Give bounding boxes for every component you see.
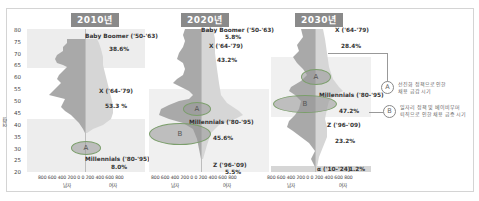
ytick-65: 65 (7, 62, 21, 68)
year-badge-2030: 2030년 (295, 13, 343, 27)
pct-baby-boomer: 5.8% (225, 34, 241, 40)
x-label-female: 여자 (339, 182, 347, 188)
pct-gen-alpha: 1.2% (349, 166, 365, 172)
pct-millennials: 45.6% (213, 135, 233, 141)
x-label-female: 여자 (223, 182, 231, 188)
connector-b (369, 112, 383, 113)
year-badge-2020: 2020년 (181, 13, 229, 27)
panel-2030: 2030년 X ('64-'79) 28.4% Millennials ('80… (271, 9, 371, 193)
marker-a: A (71, 141, 101, 155)
legend-b-line-2: 퇴직으로 인한 채용 급증 시기 (400, 111, 466, 118)
ytick-80: 80 (7, 27, 21, 33)
label-gen-x: X ('64-'79) (335, 27, 369, 33)
x-label-male: 남자 (287, 182, 295, 188)
population-shape-2020 (149, 29, 269, 172)
legend-a-text: 선진화 정책으로 인한 채용 급감 시기 (398, 81, 446, 95)
pct-millennials: 8.0% (111, 164, 127, 170)
ytick-20: 20 (7, 169, 21, 175)
legend-a-line-1: 선진화 정책으로 인한 (398, 81, 446, 88)
pct-gen-x: 43.2% (217, 57, 237, 63)
plot-2030: X ('64-'79) 28.4% Millennials ('80-'95) … (271, 29, 371, 172)
legend-a-line-2: 채용 급감 시기 (398, 88, 446, 95)
marker-b: B (273, 95, 337, 113)
x-ticks-2010: 800 600 400 200 0 0 200 400 600 800 (38, 175, 124, 180)
label-gen-z: Z ('96-'09) (213, 162, 247, 168)
plot-2010: 80 75 70 65 60 55 50 45 40 35 30 25 20 연… (27, 29, 145, 172)
chart-frame: 2010년 80 75 70 65 60 55 50 45 40 35 30 2… (6, 8, 474, 192)
label-baby-boomer: Baby Boomer ('50-'63) (85, 33, 158, 39)
ytick-35: 35 (7, 134, 21, 140)
label-millennials: Millennials ('80-'95) (189, 119, 254, 125)
ytick-55: 55 (7, 86, 21, 92)
center-axis (201, 29, 202, 172)
label-gen-x: X ('64-'79) (99, 88, 133, 94)
ytick-70: 70 (7, 51, 21, 57)
legend-b-text: 일자리 정책 및 베이비부머 퇴직으로 인한 채용 급증 시기 (400, 104, 466, 118)
ytick-30: 30 (7, 146, 21, 152)
x-ticks-2020: 800 600 400 200 0 0 200 400 600 800 (151, 175, 237, 180)
marker-a: A (301, 69, 331, 85)
legend-b-circle: B (383, 105, 396, 118)
ytick-40: 40 (7, 122, 21, 128)
x-label-male: 남자 (63, 182, 71, 188)
x-label-female: 여자 (109, 182, 117, 188)
year-badge-2010: 2010년 (71, 13, 119, 27)
ytick-60: 60 (7, 74, 21, 80)
ytick-45: 45 (7, 110, 21, 116)
pct-baby-boomer: 38.6% (109, 46, 129, 52)
label-gen-alpha: α ('10-'24) (317, 166, 350, 172)
label-gen-z: Z ('96-'09) (327, 122, 361, 128)
y-axis-label: 연령 (1, 117, 8, 127)
marker-a: A (183, 102, 211, 116)
ytick-75: 75 (7, 39, 21, 45)
connector-a (328, 53, 388, 87)
panel-2020: 2020년 Baby Boomer ('50-'63) 5.8% X ('64-… (149, 9, 269, 193)
pct-millennials: 47.2% (339, 108, 359, 114)
marker-b: B (149, 123, 211, 145)
x-label-male: 남자 (171, 182, 179, 188)
plot-2020: Baby Boomer ('50-'63) 5.8% X ('64-'79) 4… (149, 29, 269, 172)
label-gen-x: X ('64-'79) (209, 43, 243, 49)
label-millennials: Millennials ('80-'95) (85, 156, 150, 162)
legend-a-circle: A (381, 81, 394, 94)
pct-gen-x: 28.4% (341, 43, 361, 49)
ytick-50: 50 (7, 98, 21, 104)
pct-gen-x: 53.3 % (105, 103, 127, 109)
panel-2010: 2010년 80 75 70 65 60 55 50 45 40 35 30 2… (27, 9, 147, 193)
legend-b-line-1: 일자리 정책 및 베이비부머 (400, 104, 466, 111)
ytick-25: 25 (7, 157, 21, 163)
pct-gen-z: 23.2% (335, 138, 355, 144)
label-baby-boomer: Baby Boomer ('50-'63) (201, 27, 274, 33)
x-ticks-2030: 800 600 400 200 0 0 200 400 600 800 (267, 175, 353, 180)
